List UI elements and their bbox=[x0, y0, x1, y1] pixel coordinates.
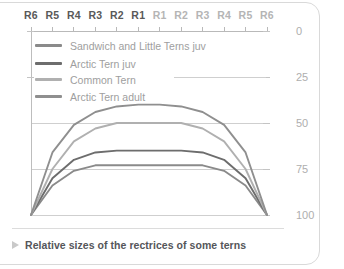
legend-swatch bbox=[35, 95, 62, 98]
caption-text: Relative sizes of the rectrices of some … bbox=[25, 239, 246, 251]
y-axis-label: 50 bbox=[296, 117, 308, 129]
y-axis-label: 25 bbox=[296, 71, 308, 83]
legend-swatch bbox=[35, 62, 62, 65]
caption: Relative sizes of the rectrices of some … bbox=[12, 237, 246, 253]
series-line-0 bbox=[31, 165, 267, 215]
triangle-right-icon bbox=[12, 241, 19, 249]
legend-label: Arctic Tern juv bbox=[70, 57, 136, 71]
legend-label: Common Tern bbox=[70, 73, 136, 87]
y-axis-label: 0 bbox=[296, 25, 302, 37]
caption-divider bbox=[12, 228, 284, 229]
legend-label: Sandwich and Little Terns juv bbox=[70, 39, 206, 53]
legend-swatch bbox=[35, 44, 62, 47]
legend-label: Arctic Tern adult bbox=[70, 90, 145, 104]
chart-stage: R6R5R4R3R2R1R1R2R3R4R5R6 0255075100 Sand… bbox=[0, 0, 344, 269]
series-line-1 bbox=[31, 151, 267, 215]
x-axis-label: R6 bbox=[254, 9, 280, 21]
y-axis-label: 75 bbox=[296, 163, 308, 175]
legend-swatch bbox=[35, 78, 62, 81]
legend-sample-rule bbox=[174, 77, 266, 78]
series-line-3 bbox=[31, 105, 267, 215]
y-axis-label: 100 bbox=[296, 209, 314, 221]
